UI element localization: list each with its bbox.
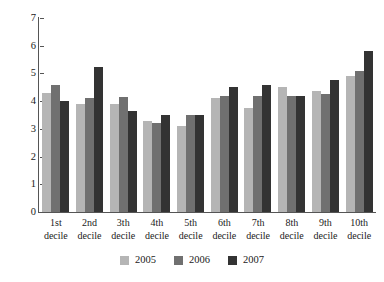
x-axis-label-line2: decile: [106, 229, 140, 242]
bar: [110, 104, 119, 212]
bar: [220, 96, 229, 212]
x-axis-label: 8thdecile: [275, 216, 309, 250]
bar: [229, 87, 238, 212]
bar: [355, 71, 364, 212]
y-axis-tick-label: 3: [6, 121, 36, 137]
bar-group: [243, 18, 273, 212]
bar: [51, 85, 60, 212]
legend-swatch: [120, 256, 129, 265]
bar: [85, 98, 94, 212]
y-axis-tick-label: 5: [6, 65, 36, 81]
bar-group: [344, 18, 374, 212]
legend-item: 2006: [174, 254, 210, 266]
bar-group: [277, 18, 307, 212]
bar: [186, 115, 195, 212]
x-axis-label-line2: decile: [342, 229, 376, 242]
bar: [312, 91, 321, 212]
x-axis-label: 7thdecile: [241, 216, 275, 250]
x-axis-label-line1: 7th: [241, 216, 275, 229]
x-axis-label-line1: 2nd: [73, 216, 107, 229]
x-axis-label: 5thdecile: [174, 216, 208, 250]
x-axis-label-line1: 8th: [275, 216, 309, 229]
x-axis-line: [38, 212, 376, 213]
bar: [76, 104, 85, 212]
x-axis-label-line2: decile: [208, 229, 242, 242]
y-axis-tick-label: 2: [6, 149, 36, 165]
x-axis-label-line2: decile: [140, 229, 174, 242]
bar: [143, 121, 152, 212]
x-axis-label: 6thdecile: [208, 216, 242, 250]
bar: [60, 101, 69, 212]
x-axis-labels: 1stdecile2nddecile3thdecile4thdecile5thd…: [39, 216, 376, 250]
x-axis-label-line1: 3th: [106, 216, 140, 229]
bar: [152, 123, 161, 212]
y-axis-tick-label: 7: [6, 10, 36, 26]
chart-legend: 200520062007: [0, 254, 384, 266]
x-axis-label-line2: decile: [275, 229, 309, 242]
bar-chart: 76543210 1stdecile2nddecile3thdecile4thd…: [0, 0, 384, 282]
bar: [42, 93, 51, 212]
bar: [244, 108, 253, 212]
bar: [287, 96, 296, 212]
legend-label: 2007: [243, 254, 264, 266]
bar-group: [41, 18, 71, 212]
bar: [278, 87, 287, 212]
legend-item: 2005: [120, 254, 156, 266]
bar-group: [209, 18, 239, 212]
bar: [161, 115, 170, 212]
bar: [296, 96, 305, 212]
legend-swatch: [174, 256, 183, 265]
legend-label: 2006: [189, 254, 210, 266]
bar: [177, 126, 186, 212]
y-axis-tick-label: 0: [6, 204, 36, 220]
bar: [94, 67, 103, 213]
x-axis-label-line1: 6th: [208, 216, 242, 229]
bar-group: [176, 18, 206, 212]
bar-groups: [39, 18, 376, 212]
x-axis-label-line2: decile: [309, 229, 343, 242]
y-axis-tick-label: 4: [6, 93, 36, 109]
x-axis-label: 2nddecile: [73, 216, 107, 250]
bar: [211, 98, 220, 212]
bar: [321, 94, 330, 212]
bar: [128, 111, 137, 212]
x-axis-label: 1stdecile: [39, 216, 73, 250]
legend-swatch: [228, 256, 237, 265]
x-axis-label: 9thdecile: [309, 216, 343, 250]
x-axis-label-line1: 5th: [174, 216, 208, 229]
x-axis-label: 4thdecile: [140, 216, 174, 250]
x-axis-label-line1: 1st: [39, 216, 73, 229]
y-axis-tick-label: 6: [6, 38, 36, 54]
bar: [195, 115, 204, 212]
bar-group: [310, 18, 340, 212]
x-axis-label-line2: decile: [39, 229, 73, 242]
bar: [346, 76, 355, 212]
legend-label: 2005: [135, 254, 156, 266]
x-axis-label-line1: 10th: [342, 216, 376, 229]
bar: [262, 85, 271, 212]
bar: [253, 96, 262, 212]
y-axis-tick-label: 1: [6, 176, 36, 192]
x-axis-label-line1: 4th: [140, 216, 174, 229]
bar-group: [108, 18, 138, 212]
legend-item: 2007: [228, 254, 264, 266]
bar-group: [75, 18, 105, 212]
x-axis-label-line2: decile: [73, 229, 107, 242]
x-axis-label: 10thdecile: [342, 216, 376, 250]
x-axis-label: 3thdecile: [106, 216, 140, 250]
x-axis-label-line2: decile: [174, 229, 208, 242]
x-axis-label-line1: 9th: [309, 216, 343, 229]
bar-group: [142, 18, 172, 212]
x-axis-label-line2: decile: [241, 229, 275, 242]
bar: [330, 80, 339, 212]
bar: [364, 51, 373, 212]
bar: [119, 97, 128, 212]
